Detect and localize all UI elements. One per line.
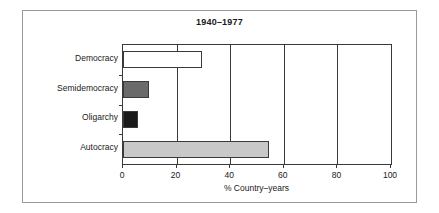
x-tick-0 [122,164,123,168]
x-tick-100 [390,164,391,168]
gridline-80 [337,45,338,164]
category-label-democracy: Democracy [8,53,118,63]
x-tick-20 [176,164,177,168]
gridline-60 [284,45,285,164]
x-axis-title: % Country–years [122,183,391,193]
x-tick-label-60: 60 [278,170,287,180]
x-tick-label-80: 80 [332,170,341,180]
bar-semidemocracy [123,81,149,98]
category-label-semidemocracy: Semidemocracy [8,83,118,93]
x-tick-60 [283,164,284,168]
bar-democracy [123,51,202,68]
x-tick-label-0: 0 [120,170,125,180]
category-tick-2 [119,105,123,106]
x-tick-40 [229,164,230,168]
x-tick-80 [336,164,337,168]
figure-container: 1940–1977 DemocracySemidemocracyOligarch… [0,0,439,213]
category-tick-1 [119,75,123,76]
x-tick-label-100: 100 [383,170,397,180]
chart-title: 1940–1977 [22,17,417,27]
category-tick-3 [119,134,123,135]
x-tick-label-20: 20 [171,170,180,180]
plot-area [122,44,392,165]
x-axis-line [122,164,391,165]
category-label-oligarchy: Oligarchy [8,112,118,122]
bar-oligarchy [123,111,138,128]
category-label-autocracy: Autocracy [8,142,118,152]
category-axis-labels: DemocracySemidemocracyOligarchyAutocracy [4,44,118,163]
bar-autocracy [123,141,269,158]
x-tick-label-40: 40 [224,170,233,180]
